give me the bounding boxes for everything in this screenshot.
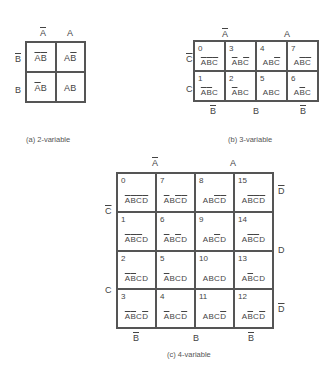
- cell-index: 1: [198, 74, 202, 83]
- minterm-expression: ABC: [288, 58, 317, 67]
- cell-index: 4: [260, 44, 264, 53]
- minterm-expression: ABC: [195, 58, 224, 67]
- kmap-cell: 1ABC: [194, 71, 225, 101]
- col-label-a: A: [284, 29, 290, 39]
- minterm-expression: ABCD: [235, 274, 272, 283]
- minterm-expression: ABCD: [157, 235, 194, 244]
- bottom-label-b: B: [253, 106, 259, 116]
- kmap-cell: 1ABCD: [117, 212, 156, 251]
- kmap-4-grid: 0ABCD7ABCD8ABCD15ABCD1ABCD6ABCD9ABCD14AB…: [116, 172, 274, 329]
- minterm-expression: AB: [57, 53, 85, 63]
- cell-index: 7: [291, 44, 295, 53]
- kmap-cell: 8ABCD: [195, 173, 234, 212]
- row-label-c: C: [186, 84, 193, 94]
- cell-index: 6: [291, 74, 295, 83]
- right-label-d-bar: D: [278, 186, 285, 196]
- kmap-cell: 6ABCD: [156, 212, 195, 251]
- cell-index: 4: [160, 292, 164, 301]
- kmap-cell: 3ABC: [225, 41, 256, 71]
- minterm-expression: ABCD: [157, 274, 194, 283]
- bottom-label-b-bar: B: [133, 333, 139, 343]
- kmap-cell: AB: [26, 72, 56, 102]
- minterm-expression: ABCD: [196, 196, 233, 205]
- cell-index: 2: [121, 254, 125, 263]
- right-label-d: D: [278, 245, 285, 255]
- kmap-cell: AB: [56, 42, 86, 72]
- kmap-cell: 6ABC: [287, 71, 318, 101]
- kmap-cell: 15ABCD: [234, 173, 273, 212]
- col-label-a: A: [67, 28, 73, 38]
- minterm-expression: ABC: [195, 88, 224, 97]
- minterm-expression: ABCD: [235, 196, 272, 205]
- minterm-expression: ABCD: [157, 312, 194, 321]
- bottom-label-b-bar-2: B: [248, 333, 254, 343]
- cell-index: 9: [199, 215, 203, 224]
- cell-index: 12: [238, 292, 247, 301]
- minterm-expression: AB: [27, 83, 55, 93]
- right-label-d-bar-2: D: [278, 304, 285, 314]
- cell-index: 1: [121, 215, 125, 224]
- kmap-cell: 10ABCD: [195, 251, 234, 290]
- col-label-a-bar: A: [40, 28, 46, 38]
- kmap-cell: AB: [26, 42, 56, 72]
- caption-2-variable: (a) 2-variable: [26, 135, 70, 144]
- kmap-cell: 3ABCD: [117, 289, 156, 328]
- minterm-expression: ABC: [226, 58, 255, 67]
- row-label-c-bar: C: [186, 54, 193, 64]
- cell-index: 13: [238, 254, 247, 263]
- cell-index: 7: [160, 176, 164, 185]
- minterm-expression: ABCD: [118, 312, 155, 321]
- minterm-expression: ABC: [257, 88, 286, 97]
- cell-index: 14: [238, 215, 247, 224]
- left-label-c: C: [105, 285, 112, 295]
- col-label-a-bar: A: [152, 158, 158, 168]
- kmap-cell: 2ABC: [225, 71, 256, 101]
- kmap-cell: 7ABC: [287, 41, 318, 71]
- caption-4-variable: (c) 4-variable: [167, 350, 211, 359]
- kmap-3-grid: 0ABC3ABC4ABC7ABC1ABC2ABC5ABC6ABC: [193, 40, 319, 102]
- kmap-cell: 11ABCD: [195, 289, 234, 328]
- kmap-cell: 12ABCD: [234, 289, 273, 328]
- minterm-expression: ABC: [257, 58, 286, 67]
- kmap-cell: 0ABCD: [117, 173, 156, 212]
- minterm-expression: ABCD: [235, 312, 272, 321]
- kmap-cell: 5ABC: [256, 71, 287, 101]
- minterm-expression: ABCD: [196, 274, 233, 283]
- cell-index: 15: [238, 176, 247, 185]
- cell-index: 6: [160, 215, 164, 224]
- cell-index: 10: [199, 254, 208, 263]
- bottom-label-b: B: [193, 333, 199, 343]
- kmap-cell: 7ABCD: [156, 173, 195, 212]
- kmap-cell: 4ABCD: [156, 289, 195, 328]
- minterm-expression: ABC: [288, 88, 317, 97]
- cell-index: 11: [199, 292, 207, 301]
- bottom-label-b-bar-2: B: [300, 106, 306, 116]
- minterm-expression: AB: [27, 53, 55, 63]
- kmap-cell: 14ABCD: [234, 212, 273, 251]
- col-label-a-bar: A: [222, 29, 228, 39]
- cell-index: 8: [199, 176, 203, 185]
- kmap-cell: 9ABCD: [195, 212, 234, 251]
- caption-3-variable: (b) 3-variable: [228, 135, 272, 144]
- kmap-cell: 13ABCD: [234, 251, 273, 290]
- kmap-cell: 2ABCD: [117, 251, 156, 290]
- cell-index: 5: [260, 74, 264, 83]
- kmap-cell: 0ABC: [194, 41, 225, 71]
- minterm-expression: ABCD: [118, 274, 155, 283]
- kmap-2-grid: ABABABAB: [25, 41, 86, 103]
- cell-index: 5: [160, 254, 164, 263]
- minterm-expression: ABCD: [118, 235, 155, 244]
- minterm-expression: ABCD: [157, 196, 194, 205]
- left-label-c-bar: C: [105, 206, 112, 216]
- cell-index: 2: [229, 74, 233, 83]
- bottom-label-b-bar: B: [210, 106, 216, 116]
- kmap-cell: AB: [56, 72, 86, 102]
- minterm-expression: ABCD: [196, 235, 233, 244]
- minterm-expression: ABCD: [235, 235, 272, 244]
- row-label-b-bar: B: [15, 54, 21, 64]
- kmap-cell: 5ABCD: [156, 251, 195, 290]
- col-label-a: A: [230, 158, 236, 168]
- minterm-expression: ABCD: [196, 312, 233, 321]
- cell-index: 3: [121, 292, 125, 301]
- row-label-b: B: [15, 85, 21, 95]
